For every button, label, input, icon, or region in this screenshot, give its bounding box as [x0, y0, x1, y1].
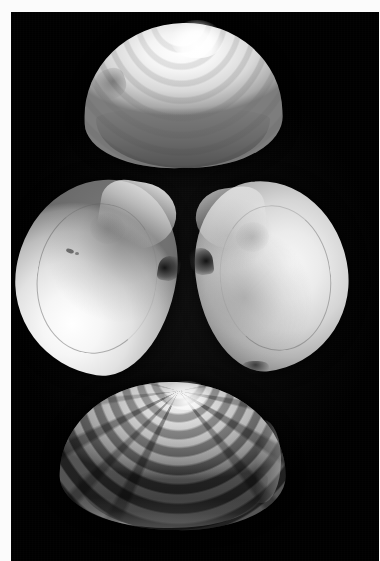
shell-bottom-umbo	[164, 381, 209, 411]
photograph-plate	[0, 0, 380, 561]
shell-middle-right-ventral-chip	[242, 361, 269, 374]
shell-top-exterior	[84, 23, 282, 168]
shell-middle-left-hinge-beak	[157, 255, 183, 284]
shell-bottom-exterior	[60, 382, 286, 530]
shell-middle-right-interior	[196, 180, 348, 370]
shell-top-umbo	[171, 20, 222, 58]
photo-black-field	[11, 12, 379, 561]
shell-middle-left-interior	[16, 178, 176, 374]
